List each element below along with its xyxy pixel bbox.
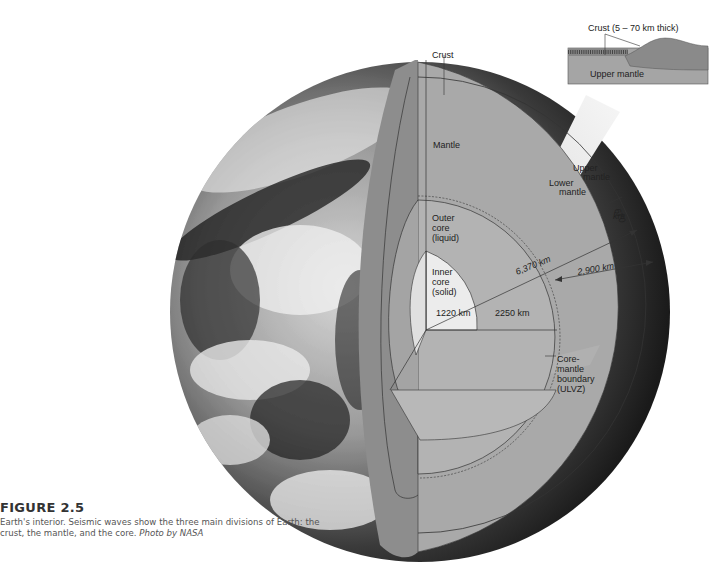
figure-caption: FIGURE 2.5 Earth's interior. Seismic wav… (0, 500, 330, 539)
label-cmb-2: mantle (557, 364, 584, 374)
figure-caption-text: Earth's interior. Seismic waves show the… (0, 517, 330, 539)
figure-title: FIGURE 2.5 (0, 500, 330, 515)
label-inner-core-1: Inner (432, 267, 453, 277)
label-crust: Crust (432, 50, 454, 60)
label-outer-core-2: core (432, 223, 450, 233)
label-outer-core-1: Outer (432, 213, 455, 223)
label-outer-thickness: 2250 km (495, 308, 530, 318)
label-inner-radius: 1220 km (436, 308, 471, 318)
inset-crust-label: Crust (5 – 70 km thick) (588, 23, 679, 33)
earth-interior-diagram: Crust Mantle Upper mantle Lower mantle 6… (0, 0, 721, 570)
label-inner-core-3: (solid) (432, 287, 457, 297)
label-inner-core-2: core (432, 277, 450, 287)
photo-credit: Photo by NASA (139, 528, 203, 538)
label-cmb-1: Core- (557, 354, 580, 364)
label-upper-mantle-2: mantle (583, 172, 610, 182)
label-670-km: km (613, 211, 626, 221)
label-outer-core-3: (liquid) (432, 233, 459, 243)
label-cmb-3: boundary (557, 374, 595, 384)
label-cmb-4: (ULVZ) (557, 384, 585, 394)
crust-inset: Crust (5 – 70 km thick) Upper mantle (568, 23, 708, 84)
label-mantle: Mantle (433, 140, 460, 150)
inset-upper-mantle-label: Upper mantle (590, 69, 644, 79)
label-lower-mantle-2: mantle (559, 187, 586, 197)
